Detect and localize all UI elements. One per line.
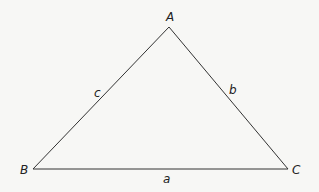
vertex-label-a: A [165,10,174,24]
vertex-label-b: B [20,163,28,177]
triangle-abc [33,27,288,169]
vertex-label-c: C [292,163,301,177]
side-label-b: b [229,83,237,97]
side-label-c: c [94,86,101,100]
triangle-diagram: A B C a b c [0,0,319,192]
side-label-a: a [163,172,170,186]
